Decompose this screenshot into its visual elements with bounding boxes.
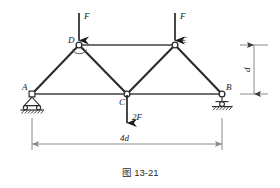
node-label-C: C [119, 97, 126, 107]
joint-D [76, 42, 82, 48]
dimension-label-span: 4d [120, 133, 130, 143]
joint-E [172, 42, 178, 48]
member-C-E [127, 45, 175, 94]
dimension-label-height: d [242, 67, 252, 72]
load-label-C: 2F [132, 112, 143, 122]
figure-caption: 图 13-21 [122, 167, 159, 178]
node-label-B: B [226, 82, 232, 92]
member-E-B [175, 45, 222, 94]
load-label-D: F [83, 11, 90, 21]
member-D-C [79, 45, 127, 94]
figure-page: F F 2F A B C D E d 4d 图 13-2 [0, 0, 280, 188]
member-A-D [32, 45, 79, 94]
node-label-E: E [180, 35, 187, 45]
truss-diagram: F F 2F A B C D E d 4d 图 13-2 [0, 0, 280, 188]
load-label-E: F [179, 11, 186, 21]
node-label-A: A [21, 82, 28, 92]
node-label-D: D [67, 35, 75, 45]
